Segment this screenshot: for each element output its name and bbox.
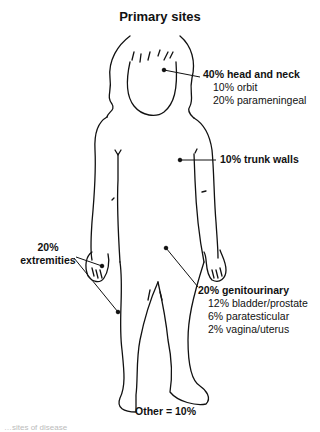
- child-body-outline: [0, 0, 320, 432]
- figure-caption: …sites of disease: [4, 423, 67, 432]
- head-neck-label-group: 40% head and neck 10% orbit 20% parameni…: [203, 68, 306, 107]
- genitourinary-label-group: 20% genitourinary 12% bladder/prostate 6…: [198, 284, 308, 336]
- trunk-walls-label: 10% trunk walls: [220, 153, 299, 166]
- vagina-uterus-label: 2% vagina/uterus: [198, 323, 308, 336]
- genitourinary-label: 20% genitourinary: [198, 284, 308, 297]
- extremities-label-group: 20% extremities: [18, 241, 78, 267]
- paratesticular-label: 6% paratesticular: [198, 310, 308, 323]
- parameningeal-label: 20% parameningeal: [203, 94, 306, 107]
- extremities-label: extremities: [18, 254, 78, 267]
- orbit-label: 10% orbit: [203, 81, 306, 94]
- extremities-percent: 20%: [18, 241, 78, 254]
- head-neck-label: 40% head and neck: [203, 68, 306, 81]
- bladder-prostate-label: 12% bladder/prostate: [198, 297, 308, 310]
- other-label: Other = 10%: [135, 405, 196, 418]
